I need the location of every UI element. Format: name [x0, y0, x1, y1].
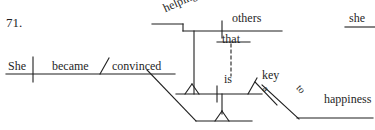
sentence-diagram-canvas: 71. She became convinced helping others … [0, 0, 375, 130]
pedestal-bottom-leg-a [215, 111, 222, 121]
word-subject-she: She [8, 60, 26, 72]
pedestal-left-leg-a [185, 84, 192, 94]
predicate-adjective-slant [100, 58, 109, 74]
word-stray-she: she [349, 12, 365, 24]
pedestal-bottom-leg-b [222, 111, 229, 121]
word-complement-key: key [262, 69, 279, 81]
word-subordinator-that: that [222, 33, 240, 45]
clause-complement-slant [248, 78, 257, 94]
noun-clause-connector [147, 70, 196, 121]
word-verb-became: became [52, 60, 89, 72]
exercise-number: 71. [6, 16, 22, 29]
pedestal-left-leg-b [192, 84, 199, 94]
word-prep-object-happiness: happiness [324, 93, 371, 105]
word-predicate-adjective-convinced: convinced [112, 60, 161, 72]
word-clause-verb-is: is [224, 73, 232, 85]
word-gerund-object-others: others [232, 12, 261, 24]
